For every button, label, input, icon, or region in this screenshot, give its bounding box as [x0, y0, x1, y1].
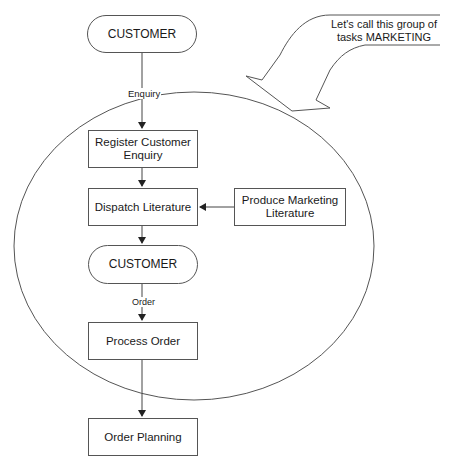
register-enquiry-node: Register Customer Enquiry — [88, 130, 198, 168]
callout-line1: Let's call this group of — [330, 18, 438, 31]
edge-label-enquiry: Enquiry — [127, 88, 161, 99]
produce-label-line1: Produce Marketing — [242, 194, 339, 207]
dispatch-literature-node: Dispatch Literature — [88, 188, 198, 226]
order-planning-node: Order Planning — [88, 418, 198, 456]
register-label-line2: Enquiry — [124, 149, 163, 162]
process-order-node: Process Order — [88, 322, 198, 360]
callout-line2: tasks MARKETING — [330, 31, 438, 44]
customer-top-node: CUSTOMER — [87, 15, 197, 53]
order-planning-label: Order Planning — [104, 431, 181, 444]
process-order-label: Process Order — [106, 335, 180, 348]
customer-mid-node: CUSTOMER — [88, 245, 198, 284]
edge-label-order: Order — [131, 297, 156, 307]
customer-top-label: CUSTOMER — [108, 28, 176, 41]
callout-text: Let's call this group of tasks MARKETING — [330, 18, 438, 44]
produce-literature-node: Produce Marketing Literature — [234, 188, 346, 226]
produce-label-line2: Literature — [266, 207, 315, 220]
register-label-line1: Register Customer — [95, 136, 191, 149]
customer-mid-label: CUSTOMER — [109, 258, 177, 271]
dispatch-label: Dispatch Literature — [95, 201, 192, 214]
diagram-canvas — [0, 0, 451, 467]
